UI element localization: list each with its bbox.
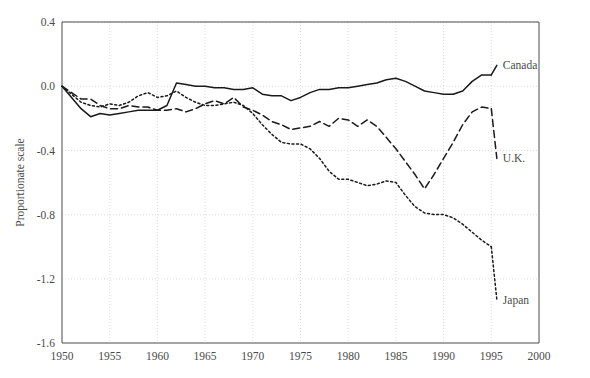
y-tick-label: -0.4 [37,145,55,157]
y-tick-label: 0.0 [41,80,56,92]
y-tick-label: 0.4 [41,16,56,28]
series-leader-canada [491,65,497,75]
x-tick-label: 1985 [384,350,407,362]
series-line-japan [62,86,491,247]
y-axis-title: Proportionate scale [14,138,27,226]
series-leader-japan [491,247,497,300]
x-tick-label: 2000 [528,350,551,362]
series-labels-layer: CanadaU.K.Japan [503,59,537,306]
series-label-uk: U.K. [503,152,525,164]
y-axis-tick-labels: 0.4 0.0 -0.4 -0.8 -1.2 -1.6 [37,16,55,349]
x-tick-label: 1980 [337,350,360,362]
x-tick-label: 1990 [432,350,455,362]
horizontal-gridlines [62,22,539,279]
x-tick-label: 1975 [289,350,312,362]
chart-container: CanadaU.K.Japan 0.4 0.0 -0.4 -0.8 -1.2 -… [0,0,590,378]
x-tick-label: 1955 [98,350,121,362]
series-leader-uk [491,109,497,159]
x-tick-label: 1970 [241,350,264,362]
series-line-canada [62,75,491,117]
x-tick-label: 1960 [146,350,169,362]
x-tick-label: 1950 [51,350,74,362]
y-tick-label: -1.2 [37,273,55,285]
series-label-japan: Japan [503,294,529,307]
series-layer [62,65,497,299]
y-tick-label: -1.6 [37,337,55,349]
x-tick-label: 1995 [480,350,503,362]
series-label-canada: Canada [503,59,537,71]
x-tick-label: 1965 [194,350,217,362]
line-chart: CanadaU.K.Japan 0.4 0.0 -0.4 -0.8 -1.2 -… [0,0,590,378]
y-tick-label: -0.8 [37,209,55,221]
vertical-gridlines [110,22,492,343]
x-axis-tick-labels: 1950 1955 1960 1965 1970 1975 1980 1985 … [51,350,551,362]
